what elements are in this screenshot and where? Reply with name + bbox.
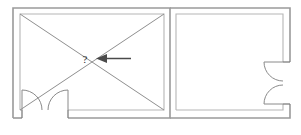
floor-plan-drawing: ? [0,0,301,135]
right-room-outer-wall [170,8,290,118]
right-room-inner-wall-bottom [176,104,283,110]
door-bottom-left-arc-right [48,90,68,110]
door-right-wall-arc-bottom [264,85,283,104]
question-mark-label: ? [83,53,88,65]
door-right-wall-arc-top [264,62,283,81]
door-bottom-left-jambs [22,110,68,118]
door-right-wall-swing [264,62,283,104]
right-room-outer-wall-bottom [170,104,290,118]
door-right-wall-jambs [283,62,290,104]
right-room-outer-wall-top [170,8,290,62]
floor-plan-canvas: ? [0,0,301,135]
left-room-diagonals [20,14,164,110]
